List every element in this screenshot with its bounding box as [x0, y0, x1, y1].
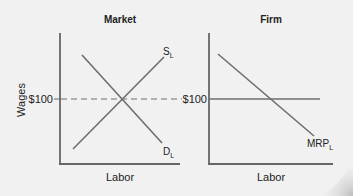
market-wage-tick: $100 [29, 93, 53, 105]
mrp-label: MRPL [307, 138, 333, 151]
market-title: Market [104, 14, 137, 25]
market-panel: Market Wages $100 SL DL Labor [15, 14, 182, 183]
supply-curve [73, 57, 164, 149]
market-x-axis-label: Labor [106, 171, 134, 183]
supply-label: SL [163, 46, 174, 59]
firm-wage-tick: $100 [183, 93, 207, 105]
firm-title: Firm [260, 14, 282, 25]
labor-market-figure: Market Wages $100 SL DL Labor Firm $100 … [0, 0, 353, 196]
mrp-curve [218, 54, 314, 136]
firm-x-axis-label: Labor [257, 171, 285, 183]
page-curl-shadow [318, 160, 353, 196]
wages-axis-label: Wages [15, 83, 27, 117]
firm-panel: Firm $100 MRPL Labor [183, 14, 334, 183]
demand-label: DL [163, 146, 174, 159]
